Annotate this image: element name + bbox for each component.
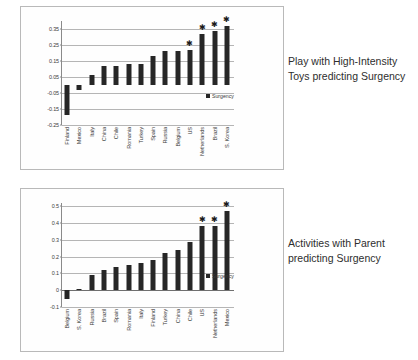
- x-tick-label: Mexico: [76, 127, 82, 144]
- y-tick-label: 0.25: [49, 42, 59, 48]
- y-tick-label: 0.1: [52, 270, 59, 276]
- x-tick-label: Finland: [150, 309, 156, 327]
- bar-slot: [73, 203, 85, 307]
- x-label-slot: Romania: [122, 125, 134, 177]
- bar-slot: [122, 203, 134, 307]
- x-label-slot: Netherlands: [196, 125, 208, 177]
- x-label-slot: Belgium: [61, 307, 73, 359]
- x-label-slot: Netherlands: [208, 307, 220, 359]
- bar: [126, 64, 131, 85]
- significance-star: ✱: [211, 217, 218, 223]
- bar: [224, 26, 229, 85]
- bar: [65, 290, 70, 298]
- x-label-slot: Belgium: [172, 125, 184, 177]
- x-tick-label: Finland: [64, 127, 70, 145]
- x-tick-label: Chile: [113, 127, 119, 139]
- bar: [151, 56, 156, 85]
- bar: [151, 260, 156, 290]
- y-tick-label: 0.35: [49, 26, 59, 32]
- bars-layer-2: ✱✱✱: [61, 203, 233, 307]
- bars-layer-1: ✱✱✱✱: [61, 21, 233, 125]
- x-label-slot: Spain: [110, 307, 122, 359]
- x-label-slot: Finland: [61, 125, 73, 177]
- bar-slot: [147, 21, 159, 125]
- x-tick-label: S. Korea: [224, 127, 230, 148]
- significance-star: ✱: [199, 217, 206, 223]
- x-tick-label: Russia: [162, 127, 168, 144]
- legend-label: Surgency: [212, 93, 234, 99]
- x-axis-labels-1: FinlandMexicoItalyChinaChileRomaniaTurke…: [61, 125, 233, 177]
- bar: [89, 75, 94, 85]
- x-label-slot: Mexico: [73, 125, 85, 177]
- bar: [138, 64, 143, 85]
- x-tick-label: Chile: [187, 309, 193, 321]
- x-tick-label: Mexico: [224, 309, 230, 326]
- chart-frame-2: 0.50.40.30.20.10-0.1 ✱✱✱ BelgiumS. Korea…: [20, 188, 284, 352]
- y-tick-label: 0: [56, 287, 59, 293]
- legend-swatch-icon: [206, 94, 210, 98]
- bar-slot: ✱: [196, 203, 208, 307]
- x-label-slot: US: [184, 125, 196, 177]
- significance-star: ✱: [211, 22, 218, 28]
- bar-slot: [73, 21, 85, 125]
- chart-frame-1: 0.350.250.150.05-0.05-0.15-0.25 ✱✱✱✱ Fin…: [20, 6, 284, 170]
- bar: [212, 226, 217, 291]
- x-label-slot: Russia: [159, 125, 171, 177]
- legend-label: Surgency: [212, 273, 234, 279]
- x-tick-label: Romania: [126, 309, 132, 331]
- figure-block-1: 0.350.250.150.05-0.05-0.15-0.25 ✱✱✱✱ Fin…: [0, 6, 418, 170]
- bar-slot: ✱: [221, 21, 233, 125]
- x-label-slot: Spain: [147, 125, 159, 177]
- x-tick-label: Spain: [113, 309, 119, 323]
- x-tick-label: Brazil: [101, 309, 107, 322]
- bar-slot: ✱: [196, 21, 208, 125]
- x-label-slot: Romania: [122, 307, 134, 359]
- x-label-slot: China: [98, 125, 110, 177]
- bar: [114, 66, 119, 85]
- legend-swatch-icon: [206, 274, 210, 278]
- bar-slot: [98, 21, 110, 125]
- x-axis-labels-2: BelgiumS. KoreaRussiaBrazilSpainRomaniaI…: [61, 307, 233, 359]
- y-tick-label: 0.5: [52, 203, 59, 209]
- bar: [138, 263, 143, 290]
- bar-slot: [98, 203, 110, 307]
- bar-slot: [86, 21, 98, 125]
- y-tick-label: -0.15: [47, 106, 59, 112]
- bar-slot: [122, 21, 134, 125]
- x-label-slot: Brazil: [208, 125, 220, 177]
- x-label-slot: S. Korea: [73, 307, 85, 359]
- bar: [187, 50, 192, 85]
- bar-slot: [147, 203, 159, 307]
- x-label-slot: Turkey: [159, 307, 171, 359]
- x-tick-label: US: [199, 309, 205, 317]
- bar: [175, 250, 180, 290]
- bar: [101, 270, 106, 290]
- bar-slot: [110, 21, 122, 125]
- bar: [212, 31, 217, 85]
- x-label-slot: Finland: [147, 307, 159, 359]
- y-tick-label: -0.1: [50, 304, 59, 310]
- bar: [89, 275, 94, 290]
- x-label-slot: Italy: [86, 125, 98, 177]
- x-label-slot: US: [196, 307, 208, 359]
- legend-2: Surgency: [206, 273, 234, 279]
- x-tick-label: Belgium: [64, 309, 70, 329]
- significance-star: ✱: [199, 25, 206, 31]
- y-tick-label: -0.25: [47, 122, 59, 128]
- x-tick-label: Belgium: [175, 127, 181, 147]
- x-tick-label: S. Korea: [76, 309, 82, 330]
- bar-slot: [61, 21, 73, 125]
- plot-area-2: 0.50.40.30.20.10-0.1 ✱✱✱ BelgiumS. Korea…: [61, 203, 273, 351]
- bar-slot: [110, 203, 122, 307]
- x-tick-label: US: [187, 127, 193, 135]
- bar-slot: [172, 203, 184, 307]
- x-label-slot: Russia: [86, 307, 98, 359]
- x-label-slot: Chile: [110, 125, 122, 177]
- bar: [101, 66, 106, 85]
- x-tick-label: Romania: [126, 127, 132, 149]
- x-tick-label: Brazil: [212, 127, 218, 140]
- bar: [126, 265, 131, 290]
- x-label-slot: Turkey: [135, 125, 147, 177]
- bar-slot: ✱: [208, 203, 220, 307]
- bar-slot: [172, 21, 184, 125]
